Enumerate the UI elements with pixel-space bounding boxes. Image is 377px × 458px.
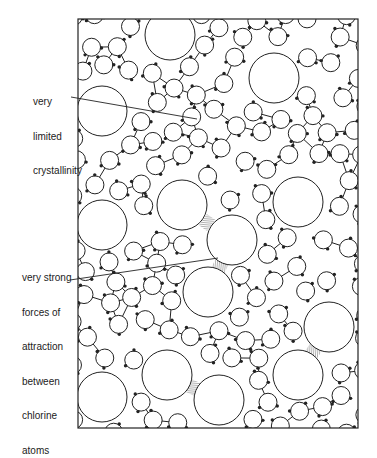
molecule-field: [61, 4, 376, 443]
label-line: atoms: [22, 445, 71, 457]
